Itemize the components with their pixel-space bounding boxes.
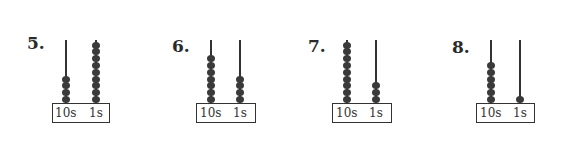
tens-label: 10s	[200, 106, 221, 120]
tens-bead	[207, 76, 215, 83]
ones-bead	[516, 96, 524, 103]
tens-bead	[343, 69, 351, 76]
tens-bead	[343, 76, 351, 83]
abacus-base: 10s1s	[332, 103, 392, 123]
tens-label: 10s	[480, 106, 501, 120]
tens-bead	[487, 82, 495, 89]
tens-bead	[207, 55, 215, 62]
tens-bead	[343, 62, 351, 69]
ones-bead	[92, 96, 100, 103]
tens-bead	[343, 82, 351, 89]
ones-bead	[92, 82, 100, 89]
abacus-base: 10s1s	[476, 103, 535, 123]
problem-number: 6.	[172, 36, 190, 56]
tens-bead	[487, 76, 495, 83]
ones-bead	[236, 96, 244, 103]
ones-bead	[236, 89, 244, 96]
tens-bead	[343, 42, 351, 49]
tens-bead	[343, 96, 351, 103]
tens-bead	[207, 69, 215, 76]
abacus-base: 10s1s	[52, 103, 110, 123]
tens-bead	[207, 62, 215, 69]
abacus-base: 10s1s	[196, 103, 256, 123]
ones-bead	[92, 48, 100, 55]
ones-bead	[92, 76, 100, 83]
problem-number: 7.	[308, 36, 326, 56]
tens-bead	[487, 89, 495, 96]
tens-bead	[487, 69, 495, 76]
ones-bead	[236, 82, 244, 89]
tens-bead	[343, 55, 351, 62]
tens-label: 10s	[336, 106, 357, 120]
ones-label: 1s	[233, 106, 247, 120]
ones-bead	[92, 55, 100, 62]
ones-label: 1s	[89, 106, 103, 120]
tens-bead	[207, 96, 215, 103]
tens-bead	[207, 89, 215, 96]
tens-bead	[487, 96, 495, 103]
ones-bead	[372, 96, 380, 103]
tens-bead	[343, 89, 351, 96]
ones-label: 1s	[369, 106, 383, 120]
ones-bead	[92, 42, 100, 49]
problem-number: 8.	[452, 37, 470, 57]
tens-bead	[343, 48, 351, 55]
tens-bead	[487, 62, 495, 69]
tens-label: 10s	[55, 106, 76, 120]
ones-rod	[519, 40, 520, 103]
tens-bead	[62, 82, 70, 89]
tens-bead	[62, 89, 70, 96]
ones-label: 1s	[513, 106, 527, 120]
ones-bead	[372, 89, 380, 96]
tens-bead	[62, 76, 70, 83]
ones-bead	[92, 89, 100, 96]
ones-bead	[236, 76, 244, 83]
ones-bead	[372, 82, 380, 89]
tens-bead	[207, 82, 215, 89]
ones-bead	[92, 69, 100, 76]
ones-bead	[92, 62, 100, 69]
tens-bead	[62, 96, 70, 103]
problem-number: 5.	[27, 33, 45, 53]
